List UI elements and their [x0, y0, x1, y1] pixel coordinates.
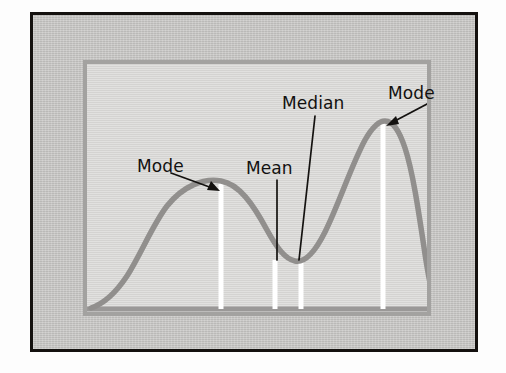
label-median: Median — [282, 95, 344, 112]
leader-line-median — [299, 116, 315, 260]
distribution-curve — [91, 121, 427, 308]
inner-gray-frame — [83, 60, 431, 316]
label-mode-right: Mode — [388, 85, 435, 102]
distribution-chart — [87, 64, 427, 312]
figure-root: Mode Mean Median Mode — [0, 0, 506, 373]
label-mode-left: Mode — [137, 158, 184, 175]
label-mean: Mean — [246, 160, 293, 177]
leader-mode-right — [386, 104, 427, 126]
outer-black-border: Mode Mean Median Mode — [30, 12, 478, 352]
leader-median — [299, 116, 315, 260]
